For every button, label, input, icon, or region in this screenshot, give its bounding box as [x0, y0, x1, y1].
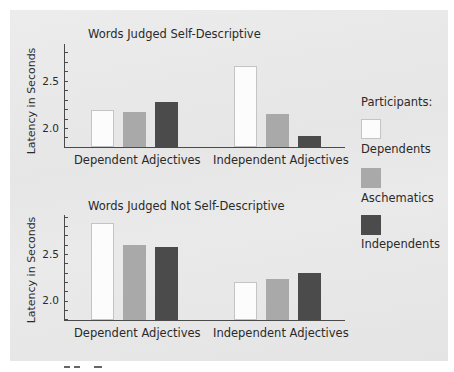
y-tick: [64, 226, 68, 227]
y-axis: [64, 44, 65, 148]
bar-dependents: [91, 223, 114, 320]
bar-dependents: [234, 282, 257, 320]
y-tick: [64, 71, 68, 72]
x-category-label: Dependent Adjectives: [74, 326, 194, 340]
legend-title: Participants:: [361, 95, 432, 109]
x-axis: [64, 320, 345, 321]
y-tick: [64, 62, 68, 63]
bar-aschematics: [123, 112, 146, 147]
y-tick: [64, 90, 68, 91]
bar-aschematics: [266, 114, 289, 147]
y-tick: [64, 119, 68, 120]
x-axis: [64, 147, 345, 148]
y-tick-label: 2.0: [33, 122, 59, 134]
y-tick: [64, 128, 68, 129]
figure-panel: [10, 10, 448, 361]
bar-independents: [155, 247, 178, 320]
bar-independents: [155, 102, 178, 147]
bar-dependents: [91, 110, 114, 147]
y-tick: [64, 254, 68, 255]
y-tick: [64, 291, 68, 292]
y-tick-label: 2.5: [33, 75, 59, 87]
y-tick: [64, 235, 68, 236]
y-tick: [64, 282, 68, 283]
y-tick: [64, 273, 68, 274]
y-tick: [64, 109, 68, 110]
x-category-label: Independent Adjectives: [213, 153, 345, 167]
bar-independents: [298, 273, 321, 320]
y-tick: [64, 137, 68, 138]
y-tick: [64, 310, 68, 311]
x-category-label: Dependent Adjectives: [74, 153, 194, 167]
bar-independents: [298, 136, 321, 147]
y-tick: [64, 319, 68, 320]
chart-title: Words Judged Not Self-Descriptive: [88, 199, 285, 213]
y-tick: [64, 217, 68, 218]
legend-label: Aschematics: [361, 191, 434, 205]
cropped-caption-fragment: [64, 366, 108, 372]
y-tick: [64, 81, 68, 82]
y-axis-label: Latency in Seconds: [25, 46, 39, 156]
y-axis-label: Latency in Seconds: [25, 215, 39, 325]
x-category-label: Independent Adjectives: [213, 326, 345, 340]
y-tick-label: 2.5: [33, 248, 59, 260]
y-tick: [64, 263, 68, 264]
legend-label: Independents: [361, 237, 440, 251]
bar-aschematics: [123, 245, 146, 320]
y-tick: [64, 245, 68, 246]
legend-swatch-dependents: [361, 119, 381, 139]
y-tick: [64, 52, 68, 53]
y-axis: [64, 215, 65, 321]
chart-title: Words Judged Self-Descriptive: [88, 27, 261, 41]
y-tick: [64, 301, 68, 302]
legend-swatch-aschematics: [361, 168, 381, 188]
legend-swatch-independents: [361, 215, 381, 235]
bar-aschematics: [266, 279, 289, 320]
bar-dependents: [234, 66, 257, 147]
y-tick: [64, 100, 68, 101]
legend-label: Dependents: [361, 142, 431, 156]
y-tick: [64, 147, 68, 148]
y-tick-label: 2.0: [33, 294, 59, 306]
